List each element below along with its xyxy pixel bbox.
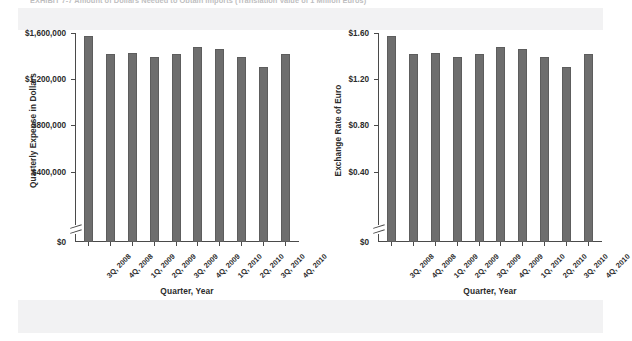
y-axis-tick (71, 125, 75, 126)
y-axis-break-icon (70, 224, 82, 235)
bar-slot (100, 33, 121, 242)
y-axis-tick (71, 33, 75, 34)
chart-exchange-rate-euro: Exchange Rate of Euro $1.60$1.20$0.80$0.… (311, 30, 611, 305)
y-axis-tick (374, 172, 378, 173)
bar-slot (122, 33, 143, 242)
bar (387, 36, 396, 242)
x-axis-tick (231, 242, 252, 246)
bar (84, 36, 93, 242)
x-axis-tick (403, 242, 424, 246)
bar-slot (534, 33, 555, 242)
bar (193, 47, 202, 242)
bar (237, 57, 246, 242)
bar (431, 53, 440, 242)
x-axis-tick (447, 242, 468, 246)
bar (150, 57, 159, 242)
chart-quarterly-expense: Quarterly Expense in Dollars $1,600,000$… (8, 30, 308, 305)
bar (584, 54, 593, 242)
bar (518, 49, 527, 242)
bar-slot (144, 33, 165, 242)
x-axis-title: Quarter, Year (378, 286, 602, 296)
y-axis-tick-label: $0.80 (349, 121, 370, 130)
bar (475, 54, 484, 242)
bar-series (75, 33, 299, 242)
y-axis-labels: $1.60$1.20$0.80$0.40$0 (311, 30, 373, 245)
y-axis-tick (374, 125, 378, 126)
x-axis-tick (144, 242, 165, 246)
exhibit-caption: EXHIBIT 7-7 Amount of Dollars Needed to … (30, 0, 590, 5)
x-axis-tick (425, 242, 446, 246)
x-axis-tick (79, 242, 100, 246)
x-axis-ticks (378, 242, 602, 246)
bar (562, 67, 571, 242)
bar-slot (556, 33, 577, 242)
bar (106, 54, 115, 242)
y-axis-tick-label: $0 (360, 238, 369, 247)
bar (281, 54, 290, 242)
bar (128, 53, 137, 242)
bar-slot (425, 33, 446, 242)
bar-slot (166, 33, 187, 242)
x-axis-tick (188, 242, 209, 246)
x-axis-tick (253, 242, 274, 246)
bar-slot (209, 33, 230, 242)
bar-slot (469, 33, 490, 242)
bar-slot (491, 33, 512, 242)
y-axis-tick (71, 79, 75, 80)
x-axis-tick (578, 242, 599, 246)
x-axis-tick (491, 242, 512, 246)
y-axis-tick-label: $0 (57, 238, 66, 247)
y-axis-tick (71, 172, 75, 173)
x-axis-tick (382, 242, 403, 246)
x-axis-tick (166, 242, 187, 246)
bar-slot (253, 33, 274, 242)
bar-slot (578, 33, 599, 242)
y-axis-tick (374, 33, 378, 34)
bar-slot (447, 33, 468, 242)
x-axis-tick (209, 242, 230, 246)
x-axis-labels: 3Q, 20084Q, 20081Q, 20092Q, 20093Q, 2009… (75, 247, 299, 281)
y-axis-tick-label: $1.60 (349, 29, 370, 38)
x-axis-tick (556, 242, 577, 246)
bar (540, 57, 549, 242)
bar (259, 67, 268, 242)
bar-slot (188, 33, 209, 242)
bar (215, 49, 224, 242)
y-axis-tick-label: $400,000 (32, 167, 66, 176)
x-axis-tick (275, 242, 296, 246)
x-axis-tick (100, 242, 121, 246)
bar-slot (231, 33, 252, 242)
bar-slot (275, 33, 296, 242)
bar-slot (79, 33, 100, 242)
x-axis-ticks (75, 242, 299, 246)
bar (409, 54, 418, 242)
x-axis-tick (512, 242, 533, 246)
y-axis-tick (374, 79, 378, 80)
x-axis-title: Quarter, Year (75, 286, 299, 296)
x-axis-labels: 3Q, 20084Q, 20081Q, 20092Q, 20093Q, 2009… (378, 247, 602, 281)
page-tint-top (18, 8, 603, 30)
x-axis-tick (534, 242, 555, 246)
bar-slot (382, 33, 403, 242)
y-axis-tick-label: $800,000 (32, 121, 66, 130)
bar (172, 54, 181, 242)
charts-row: Quarterly Expense in Dollars $1,600,000$… (0, 30, 619, 305)
bar-series (378, 33, 602, 242)
y-axis-tick-label: $0.40 (349, 167, 370, 176)
y-axis-break-icon (373, 224, 385, 235)
bar-slot (512, 33, 533, 242)
x-axis-tick (469, 242, 490, 246)
y-axis-tick-label: $1,600,000 (25, 29, 66, 38)
bar (453, 57, 462, 242)
x-axis-tick (122, 242, 143, 246)
y-axis-labels: $1,600,000$1,200,000$800,000$400,000$0 (8, 30, 70, 245)
y-axis-tick-label: $1.20 (349, 75, 370, 84)
y-axis-tick-label: $1,200,000 (25, 75, 66, 84)
bar (496, 47, 505, 242)
bar-slot (403, 33, 424, 242)
